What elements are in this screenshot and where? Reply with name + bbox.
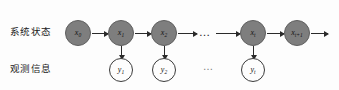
row-label-observation-info: 观测信息 bbox=[10, 64, 52, 74]
transition-arrow-xt1-next bbox=[311, 33, 328, 34]
transition-arrow-xt-xt1 bbox=[267, 33, 284, 34]
state-node-x2: x2 bbox=[151, 20, 177, 46]
transition-arrow-x0-x1 bbox=[92, 33, 108, 34]
observation-node-y1-label: y1 bbox=[118, 66, 124, 74]
observation-node-yt: yt bbox=[241, 58, 265, 82]
state-node-xt-plus-1: xt+1 bbox=[284, 20, 310, 46]
row-label-system-state: 系统状态 bbox=[10, 27, 52, 37]
emission-arrow-x1-y1 bbox=[121, 46, 122, 58]
observation-chain-ellipsis: … bbox=[203, 62, 215, 72]
state-node-x0-label: x0 bbox=[75, 29, 81, 37]
transition-arrow-x2-dots bbox=[178, 33, 197, 34]
observation-node-yt-label: yt bbox=[250, 66, 255, 74]
observation-node-y2-label: y2 bbox=[161, 66, 167, 74]
state-node-xt-label: xt bbox=[250, 29, 255, 37]
state-node-x0: x0 bbox=[65, 20, 91, 46]
state-node-xt-plus-1-label: xt+1 bbox=[291, 29, 303, 37]
observation-node-y1: y1 bbox=[109, 58, 133, 82]
transition-arrow-dots-xt bbox=[216, 33, 240, 34]
state-space-diagram: 系统状态 观测信息 x0 x1 x2 xt xt+1 bbox=[0, 0, 339, 90]
state-node-x2-label: x2 bbox=[161, 29, 167, 37]
transition-arrow-x1-x2 bbox=[135, 33, 151, 34]
state-node-x1: x1 bbox=[108, 20, 134, 46]
state-chain-ellipsis: … bbox=[199, 27, 212, 38]
emission-arrow-x2-y2 bbox=[164, 46, 165, 58]
state-node-xt: xt bbox=[240, 20, 266, 46]
state-node-x1-label: x1 bbox=[118, 29, 124, 37]
observation-node-y2: y2 bbox=[152, 58, 176, 82]
emission-arrow-xt-yt bbox=[253, 46, 254, 58]
